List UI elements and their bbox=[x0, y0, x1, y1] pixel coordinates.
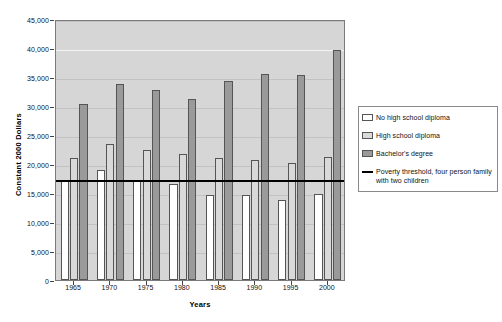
bar bbox=[324, 157, 332, 280]
white-square-swatch bbox=[362, 114, 373, 121]
x-axis-tick-label: 1975 bbox=[138, 284, 154, 291]
x-axis-tick-label: 1980 bbox=[174, 284, 190, 291]
x-axis-title: Years bbox=[55, 300, 345, 309]
y-axis-tick-label: 35,000 bbox=[27, 75, 49, 82]
y-axis-tick-label: 25,000 bbox=[27, 133, 49, 140]
bar bbox=[97, 170, 105, 280]
x-axis-tick-label: 2000 bbox=[319, 284, 335, 291]
legend-item-label: High school diploma bbox=[376, 131, 440, 140]
bar bbox=[215, 158, 223, 280]
x-axis-labels: 19651970197519801985199019952000 bbox=[55, 284, 345, 298]
y-axis-tick-mark bbox=[50, 20, 54, 21]
x-axis-tick-label: 1985 bbox=[210, 284, 226, 291]
chart-legend: No high school diplomaHigh school diplom… bbox=[358, 106, 498, 192]
bar bbox=[152, 90, 160, 280]
bar bbox=[79, 104, 87, 280]
y-axis-tick-label: 15,000 bbox=[27, 191, 49, 198]
y-axis: 05,00010,00015,00020,00025,00030,00035,0… bbox=[0, 0, 55, 322]
bar bbox=[206, 195, 214, 280]
bar-group-container bbox=[56, 21, 344, 280]
legend-item[interactable]: No high school diploma bbox=[362, 113, 493, 122]
legend-item[interactable]: Poverty threshold, four person family wi… bbox=[362, 167, 493, 185]
y-axis-tick-mark bbox=[50, 223, 54, 224]
bar bbox=[251, 160, 259, 280]
y-axis-tick-mark bbox=[50, 165, 54, 166]
y-axis-tick-mark bbox=[50, 136, 54, 137]
y-axis-tick-label: 30,000 bbox=[27, 104, 49, 111]
legend-item-label: Bachelor's degree bbox=[376, 149, 433, 158]
y-axis-tick-label: 10,000 bbox=[27, 220, 49, 227]
bar bbox=[261, 74, 269, 280]
x-axis-tick-label: 1995 bbox=[283, 284, 299, 291]
legend-item-label: No high school diploma bbox=[376, 113, 450, 122]
bar bbox=[169, 184, 177, 280]
bar bbox=[70, 158, 78, 280]
black-line-swatch bbox=[362, 168, 373, 175]
y-axis-tick-mark bbox=[50, 78, 54, 79]
bar bbox=[188, 99, 196, 280]
legend-item[interactable]: High school diploma bbox=[362, 131, 493, 140]
y-axis-tick-mark bbox=[50, 252, 54, 253]
y-axis-tick-label: 20,000 bbox=[27, 162, 49, 169]
bar bbox=[116, 84, 124, 280]
legend-item[interactable]: Bachelor's degree bbox=[362, 149, 493, 158]
y-axis-tick-mark bbox=[50, 107, 54, 108]
y-axis-tick-label: 45,000 bbox=[27, 17, 49, 24]
bar bbox=[314, 194, 322, 280]
y-axis-tick-mark bbox=[50, 194, 54, 195]
dark-gray-square-swatch bbox=[362, 150, 373, 157]
y-axis-tick-label: 5,000 bbox=[31, 249, 49, 256]
y-axis-tick-label: 40,000 bbox=[27, 46, 49, 53]
bar bbox=[143, 150, 151, 280]
legend-item-label: Poverty threshold, four person family wi… bbox=[376, 167, 493, 185]
bar bbox=[333, 50, 341, 280]
chart-figure: Constant 2000 Dollars 05,00010,00015,000… bbox=[0, 0, 502, 322]
x-axis-tick-label: 1965 bbox=[65, 284, 81, 291]
bar bbox=[179, 154, 187, 280]
bar bbox=[133, 181, 141, 280]
light-gray-square-swatch bbox=[362, 132, 373, 139]
y-axis-tick-mark bbox=[50, 49, 54, 50]
bar bbox=[106, 144, 114, 280]
y-axis-tick-mark bbox=[50, 281, 54, 282]
bar bbox=[297, 75, 305, 280]
bar bbox=[278, 200, 286, 280]
y-axis-tick-label: 0 bbox=[45, 278, 49, 285]
x-axis-tick-label: 1970 bbox=[101, 284, 117, 291]
poverty-threshold-line bbox=[56, 180, 344, 182]
bar bbox=[61, 180, 69, 280]
plot-area bbox=[55, 20, 345, 281]
bar bbox=[242, 195, 250, 280]
x-axis-tick-label: 1990 bbox=[246, 284, 262, 291]
